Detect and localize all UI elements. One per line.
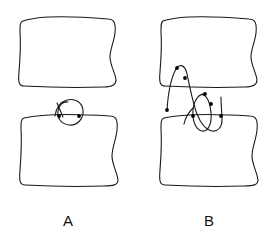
curve-dot [183,76,187,80]
intersection-dot [57,114,61,118]
upper-box [19,17,116,88]
curve-apex-dot [175,66,179,70]
lower-box [160,114,258,186]
upper-box [160,17,257,88]
loop-top-dot [203,92,207,96]
figure-canvas [0,0,274,246]
curve-endpoint-dot [165,108,169,112]
loop-side-dot [209,102,213,106]
panel-a [19,17,118,187]
panel-b [160,17,258,187]
intersection-dot [77,114,81,118]
main-crossing-curve [167,66,222,132]
panel-b-label: B [199,212,219,229]
secondary-loop [193,94,211,131]
crossing-loop [55,99,83,125]
panel-a-label: A [58,212,78,229]
intersection-dot [191,114,195,118]
curve-endpoint-dot [219,114,223,118]
